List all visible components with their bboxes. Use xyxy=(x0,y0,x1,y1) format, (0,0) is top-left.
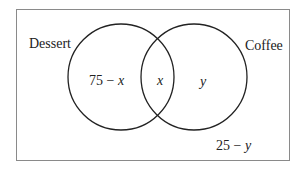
coffee-label: Coffee xyxy=(245,38,283,53)
coffee-only-region: y xyxy=(198,74,207,89)
intersection-region: x xyxy=(156,73,164,88)
dessert-only-region: 75 − x xyxy=(89,73,125,88)
neither-region: 25 − y xyxy=(216,138,252,153)
dessert-label: Dessert xyxy=(29,36,71,51)
venn-diagram: Dessert Coffee 75 − x x y 25 − y xyxy=(0,0,305,169)
